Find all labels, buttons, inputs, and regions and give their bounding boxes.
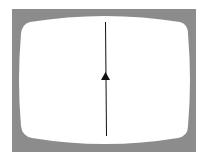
crt-screen-diagram xyxy=(0,0,211,162)
